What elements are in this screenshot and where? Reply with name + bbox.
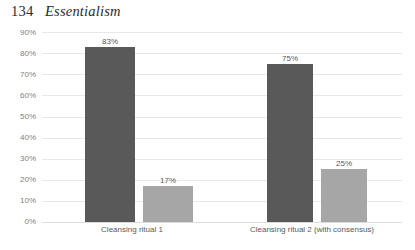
y-axis-tick: 0% bbox=[4, 218, 36, 226]
y-axis-tick: 20% bbox=[4, 176, 36, 184]
bar-series2-cat2 bbox=[321, 169, 367, 222]
y-axis-tick: 70% bbox=[4, 71, 36, 79]
y-axis-tick: 60% bbox=[4, 92, 36, 100]
bar-series1-cat1 bbox=[85, 47, 135, 222]
x-axis-category-label: Cleansing ritual 1 bbox=[42, 226, 222, 234]
y-axis-tick: 40% bbox=[4, 134, 36, 142]
page-header: 134 Essentialism bbox=[0, 0, 415, 24]
book-title: Essentialism bbox=[45, 3, 121, 20]
axis-baseline bbox=[42, 222, 402, 223]
y-axis-tick: 10% bbox=[4, 197, 36, 205]
bar-value-label: 25% bbox=[321, 160, 367, 168]
gridline bbox=[42, 32, 402, 33]
bar-value-label: 83% bbox=[85, 38, 135, 46]
bar-value-label: 75% bbox=[267, 55, 313, 63]
y-axis-tick: 50% bbox=[4, 113, 36, 121]
plot-area: 83% 17% 75% 25% bbox=[42, 32, 402, 222]
y-axis-tick: 30% bbox=[4, 155, 36, 163]
y-axis-tick: 80% bbox=[4, 50, 36, 58]
bar-value-label: 17% bbox=[143, 177, 193, 185]
bar-series1-cat2 bbox=[267, 64, 313, 222]
page-number: 134 bbox=[11, 3, 34, 20]
bar-chart: 90% 80% 70% 60% 50% 40% 30% 20% 10% 0% 8… bbox=[0, 24, 415, 250]
bar-series2-cat1 bbox=[143, 186, 193, 222]
x-axis-category-label: Cleansing ritual 2 (with consensus) bbox=[222, 226, 402, 234]
y-axis-tick: 90% bbox=[4, 29, 36, 37]
